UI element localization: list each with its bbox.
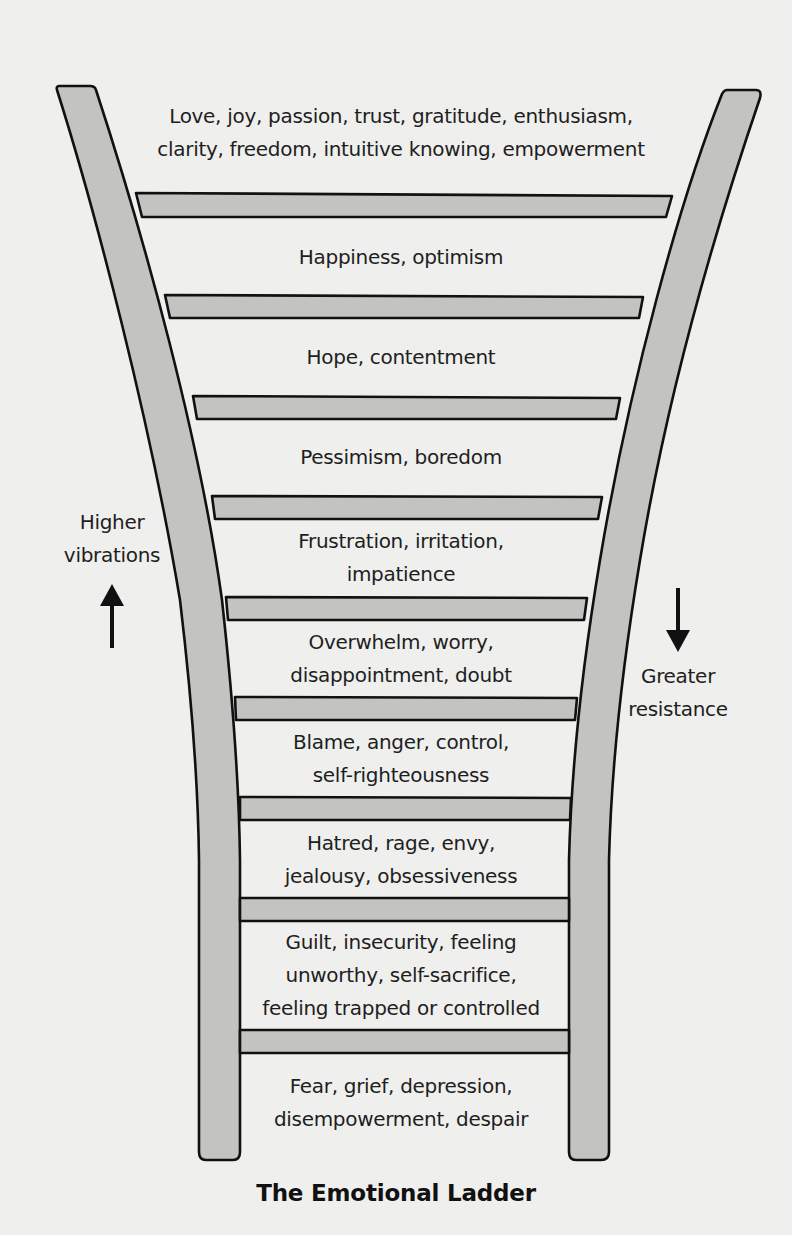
step-label-2: Happiness, optimism (96, 241, 706, 274)
rung-9 (240, 1030, 569, 1053)
step-label-8: Hatred, rage, envy, jealousy, obsessiven… (96, 827, 706, 893)
rung-5 (226, 597, 587, 620)
higher-vibrations-line-1: Higher (42, 506, 182, 539)
step-4-line-1: Pessimism, boredom (96, 441, 706, 474)
rung-7 (240, 797, 571, 820)
step-8-line-2: jealousy, obsessiveness (96, 860, 706, 893)
greater-resistance-line-1: Greater (608, 660, 748, 693)
step-label-1: Love, joy, passion, trust, gratitude, en… (96, 100, 706, 166)
greater-resistance-label: Greater resistance (608, 660, 748, 726)
step-6-line-1: Overwhelm, worry, (96, 626, 706, 659)
step-3-line-1: Hope, contentment (96, 341, 706, 374)
step-2-line-1: Happiness, optimism (96, 241, 706, 274)
diagram-title: The Emotional Ladder (0, 1180, 792, 1206)
step-label-5: Frustration, irritation, impatience (96, 525, 706, 591)
step-10-line-2: disempowerment, despair (96, 1103, 706, 1136)
rung-3 (193, 396, 620, 419)
rung-1 (136, 193, 672, 217)
step-9-line-1: Guilt, insecurity, feeling (96, 926, 706, 959)
step-label-10: Fear, grief, depression, disempowerment,… (96, 1070, 706, 1136)
step-label-9: Guilt, insecurity, feeling unworthy, sel… (96, 926, 706, 1025)
step-9-line-3: feeling trapped or controlled (96, 992, 706, 1025)
step-9-line-2: unworthy, self-sacrifice, (96, 959, 706, 992)
higher-vibrations-line-2: vibrations (42, 539, 182, 572)
step-5-line-2: impatience (96, 558, 706, 591)
rung-6 (235, 697, 577, 720)
step-10-line-1: Fear, grief, depression, (96, 1070, 706, 1103)
step-8-line-1: Hatred, rage, envy, (96, 827, 706, 860)
up-arrow-icon (98, 582, 126, 652)
rung-2 (165, 295, 643, 318)
step-7-line-2: self-righteousness (96, 759, 706, 792)
step-1-line-2: clarity, freedom, intuitive knowing, emp… (96, 133, 706, 166)
down-arrow-icon (664, 586, 692, 656)
step-7-line-1: Blame, anger, control, (96, 726, 706, 759)
step-label-7: Blame, anger, control, self-righteousnes… (96, 726, 706, 792)
higher-vibrations-label: Higher vibrations (42, 506, 182, 572)
step-label-4: Pessimism, boredom (96, 441, 706, 474)
step-1-line-1: Love, joy, passion, trust, gratitude, en… (96, 100, 706, 133)
rung-8 (240, 898, 569, 921)
step-label-3: Hope, contentment (96, 341, 706, 374)
rung-4 (212, 496, 602, 519)
step-5-line-1: Frustration, irritation, (96, 525, 706, 558)
greater-resistance-line-2: resistance (608, 693, 748, 726)
